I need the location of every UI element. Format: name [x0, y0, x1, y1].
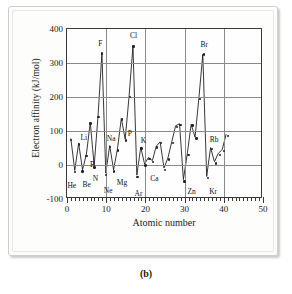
x-axis-minor-tick — [75, 197, 76, 201]
data-point — [81, 170, 83, 172]
x-axis-minor-tick — [177, 197, 178, 201]
data-point — [136, 176, 138, 178]
y-axis-tick-label: 0 — [59, 160, 64, 170]
x-axis-minor-tick — [236, 197, 237, 201]
y-axis-tick-label: 200 — [50, 92, 64, 102]
data-point-label-zn: Zn — [187, 187, 195, 196]
data-point — [97, 116, 99, 118]
x-axis-minor-tick — [157, 197, 158, 201]
x-axis-tick-label: 50 — [259, 204, 268, 214]
y-axis-tick-label: 400 — [50, 24, 64, 34]
y-axis-title: Electron affinity (kJ/mol) — [31, 33, 41, 183]
data-point-label-rb: Rb — [210, 135, 219, 144]
data-point-label-br: Br — [200, 39, 208, 48]
data-point — [176, 126, 178, 128]
x-axis-minor-tick — [79, 197, 80, 201]
figure-card: Electron affinity (kJ/mol) Atomic number… — [8, 6, 278, 256]
x-axis-minor-tick — [251, 197, 252, 201]
data-point-label-cl: Cl — [130, 31, 137, 40]
data-point — [195, 137, 197, 139]
x-axis-tick-label: 30 — [180, 204, 189, 214]
x-axis-minor-tick — [200, 197, 201, 201]
x-axis-minor-tick — [87, 197, 88, 201]
data-point — [89, 122, 91, 124]
x-axis-minor-tick — [141, 197, 142, 201]
data-point — [227, 135, 229, 137]
x-axis-minor-tick — [196, 197, 197, 201]
x-axis-minor-tick — [138, 197, 139, 201]
x-axis-minor-tick — [102, 197, 103, 201]
x-axis-minor-tick — [149, 197, 150, 201]
y-axis-tick-label: 300 — [50, 58, 64, 68]
data-point-label-p: P — [128, 128, 132, 137]
x-axis-minor-tick — [67, 197, 68, 203]
data-point — [144, 164, 146, 166]
x-axis-minor-tick — [243, 197, 244, 201]
data-point-label-f: F — [98, 39, 102, 48]
x-axis-minor-tick — [247, 197, 248, 201]
x-axis-minor-tick — [161, 197, 162, 201]
x-axis-title: Atomic number — [67, 217, 261, 228]
x-axis-minor-tick — [204, 197, 205, 201]
y-axis-tick-label: -100 — [47, 194, 64, 204]
data-point-label-n: N — [93, 174, 98, 183]
data-point — [168, 158, 170, 160]
x-axis-minor-tick — [153, 197, 154, 201]
y-axis-tick-label: 100 — [50, 126, 64, 136]
figure-panel: Electron affinity (kJ/mol) Atomic number… — [0, 0, 292, 294]
x-axis-minor-tick — [94, 197, 95, 201]
x-axis-minor-tick — [181, 197, 182, 201]
x-axis-minor-tick — [220, 197, 221, 201]
data-point — [179, 124, 181, 126]
gridline-vertical — [185, 29, 186, 197]
x-axis-minor-tick — [114, 197, 115, 201]
x-axis-minor-tick — [71, 197, 72, 201]
x-axis-minor-tick — [189, 197, 190, 201]
x-axis-minor-tick — [91, 197, 92, 201]
gridline-horizontal — [67, 97, 261, 98]
x-axis-minor-tick — [122, 197, 123, 201]
gridline-vertical — [106, 29, 107, 197]
x-axis-minor-tick — [263, 197, 264, 203]
data-point — [85, 155, 87, 157]
data-point — [148, 158, 150, 160]
data-point-label-k: K — [141, 135, 146, 144]
gridline-horizontal — [67, 63, 261, 64]
x-axis-minor-tick — [232, 197, 233, 201]
data-point-label-mg: Mg — [117, 178, 127, 187]
gridline-vertical — [145, 29, 146, 197]
x-axis-minor-tick — [259, 197, 260, 201]
x-axis-minor-tick — [255, 197, 256, 201]
x-axis-minor-tick — [216, 197, 217, 201]
data-point-label-be: Be — [83, 180, 91, 189]
x-axis-minor-tick — [173, 197, 174, 201]
x-axis-minor-tick — [224, 197, 225, 203]
x-axis-minor-tick — [212, 197, 213, 201]
data-point — [113, 170, 115, 172]
data-point-label-na: Na — [107, 133, 116, 142]
gridline-horizontal — [67, 131, 261, 132]
data-point — [121, 118, 123, 120]
data-point-label-he: He — [67, 181, 76, 190]
x-axis-minor-tick — [185, 197, 186, 203]
x-axis-minor-tick — [169, 197, 170, 201]
data-point — [78, 143, 80, 145]
x-axis-tick-label: 0 — [65, 204, 70, 214]
data-point-label-kr: Kr — [209, 187, 217, 196]
x-axis-tick-label: 20 — [141, 204, 150, 214]
x-axis-minor-tick — [134, 197, 135, 201]
x-axis-minor-tick — [239, 197, 240, 201]
x-axis-minor-tick — [208, 197, 209, 201]
data-point — [125, 139, 127, 141]
gridline-horizontal — [67, 165, 261, 166]
data-series-line — [67, 29, 261, 197]
x-axis-minor-tick — [228, 197, 229, 201]
data-point — [219, 154, 221, 156]
figure-caption: (b) — [0, 268, 292, 279]
data-point — [117, 149, 119, 151]
data-point-label-ca: Ca — [150, 173, 158, 182]
gridline-vertical — [224, 29, 225, 197]
data-point — [183, 180, 185, 182]
data-point-label-li: Li — [80, 132, 87, 141]
data-point — [191, 124, 193, 126]
